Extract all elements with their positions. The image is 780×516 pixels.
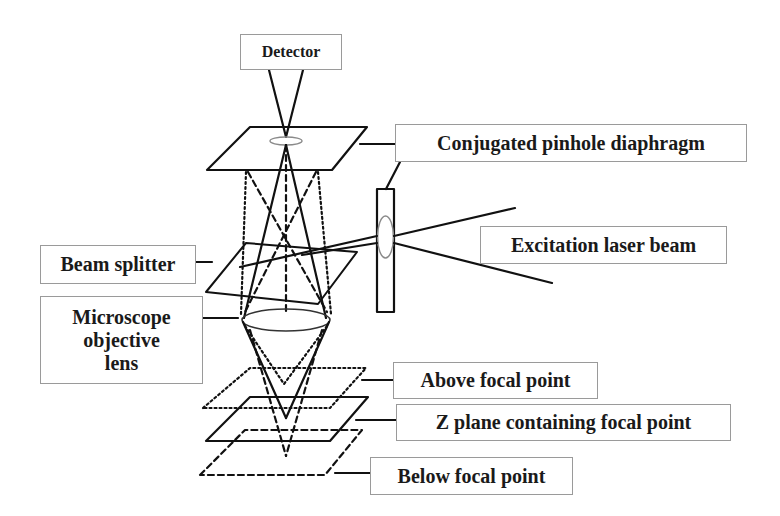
objective-text-3: lens bbox=[105, 352, 138, 375]
above-focal-text: Above focal point bbox=[421, 369, 571, 392]
z-plane-text: Z plane containing focal point bbox=[436, 411, 692, 434]
above-focal-label: Above focal point bbox=[393, 362, 598, 399]
objective-label: Microscope objective lens bbox=[40, 296, 203, 384]
objective-text-1: Microscope bbox=[72, 306, 171, 329]
detector-text: Detector bbox=[262, 43, 321, 61]
laser-lens-connector bbox=[386, 162, 400, 189]
below-focal-text: Below focal point bbox=[398, 465, 546, 488]
laser-text: Excitation laser beam bbox=[511, 234, 696, 257]
below-focal-label: Below focal point bbox=[370, 457, 573, 495]
focal-cone bbox=[243, 322, 329, 418]
beam-splitter bbox=[206, 243, 357, 304]
beam-splitter-label: Beam splitter bbox=[40, 245, 196, 284]
laser-label: Excitation laser beam bbox=[480, 226, 727, 264]
detector-label: Detector bbox=[240, 34, 342, 70]
pinhole-label: Conjugated pinhole diaphragm bbox=[395, 124, 747, 162]
pinhole-aperture bbox=[270, 137, 302, 145]
beam-splitter-text: Beam splitter bbox=[61, 253, 176, 276]
above-focal-plane bbox=[203, 368, 366, 408]
objective-lens bbox=[242, 309, 330, 331]
z-plane-label: Z plane containing focal point bbox=[396, 404, 731, 441]
laser-lens bbox=[378, 216, 394, 258]
z-focal-plane bbox=[206, 397, 368, 441]
pinhole-text: Conjugated pinhole diaphragm bbox=[437, 132, 705, 155]
objective-text-2: objective bbox=[83, 329, 160, 352]
